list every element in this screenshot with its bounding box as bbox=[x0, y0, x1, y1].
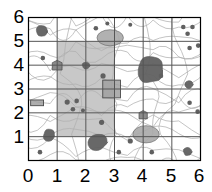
map-blob bbox=[38, 150, 43, 155]
map-blob bbox=[128, 138, 133, 143]
x-tick-label-2: 2 bbox=[76, 166, 94, 185]
y-tick-label-2: 2 bbox=[6, 103, 24, 122]
map-blob bbox=[36, 26, 47, 37]
map-blob bbox=[190, 25, 195, 30]
map-blob bbox=[71, 107, 76, 112]
map-blob bbox=[117, 150, 122, 155]
x-tick-label-3: 3 bbox=[105, 166, 123, 185]
map-blob bbox=[65, 100, 70, 105]
figure-container: 0 1 2 3 4 5 6 6 5 4 3 2 1 bbox=[0, 0, 212, 192]
y-tick-label-4: 4 bbox=[6, 55, 24, 74]
x-tick-label-4: 4 bbox=[133, 166, 151, 185]
map-blob bbox=[41, 56, 46, 61]
map-blob bbox=[74, 99, 79, 104]
map-blob bbox=[133, 126, 159, 143]
y-tick-label-6: 6 bbox=[6, 7, 24, 26]
map-blob bbox=[105, 21, 109, 25]
map-blob bbox=[181, 25, 186, 30]
y-tick-label-3: 3 bbox=[6, 79, 24, 98]
map-blob bbox=[100, 73, 105, 78]
map-blob bbox=[183, 147, 192, 155]
map-blob bbox=[99, 120, 104, 125]
map-blob bbox=[149, 150, 154, 155]
map-blob bbox=[81, 108, 85, 112]
map-blob bbox=[187, 101, 192, 106]
x-tick-label-6: 6 bbox=[190, 166, 208, 185]
map-blob bbox=[97, 30, 123, 46]
y-tick-label-5: 5 bbox=[6, 31, 24, 50]
map-blob bbox=[43, 129, 54, 141]
x-tick-label-1: 1 bbox=[48, 166, 66, 185]
map-blob bbox=[94, 26, 99, 31]
map-blob bbox=[185, 31, 190, 36]
x-tick-label-0: 0 bbox=[19, 166, 37, 185]
map-blob bbox=[196, 43, 201, 48]
map-blob bbox=[159, 74, 164, 79]
map-rectangle bbox=[31, 100, 44, 106]
map-blob bbox=[187, 46, 192, 51]
y-tick-label-1: 1 bbox=[6, 127, 24, 146]
spatial-grid-plot bbox=[0, 0, 212, 192]
map-blob bbox=[128, 23, 132, 27]
x-tick-label-5: 5 bbox=[162, 166, 180, 185]
map-blob bbox=[138, 57, 162, 83]
